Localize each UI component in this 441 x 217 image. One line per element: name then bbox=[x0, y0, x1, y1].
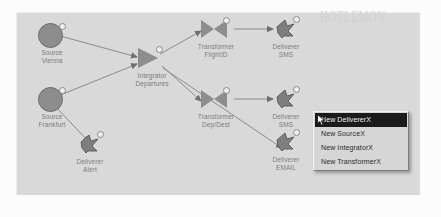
node-handle-icon[interactable] bbox=[293, 86, 300, 93]
app-window: HOTLEMON HOTLEMON.COM bbox=[0, 0, 441, 217]
node-handle-icon[interactable] bbox=[223, 17, 230, 24]
menu-item-new-source[interactable]: New SourceX bbox=[315, 127, 407, 141]
circle-icon bbox=[24, 86, 80, 112]
node-label: Deliverer SMS bbox=[258, 43, 314, 58]
node-label: Transformer Dep/Dest bbox=[188, 113, 244, 128]
menu-item-new-integrator[interactable]: New IntegratorX bbox=[315, 141, 407, 155]
node-source-vienna[interactable]: Source Vienna bbox=[24, 22, 80, 64]
node-handle-icon[interactable] bbox=[223, 87, 230, 94]
arrow-icon bbox=[258, 129, 314, 155]
node-label: Integrator Departures bbox=[124, 72, 180, 87]
node-label: Transformer FlightID bbox=[188, 43, 244, 58]
mouse-cursor-icon bbox=[317, 114, 326, 126]
node-handle-icon[interactable] bbox=[59, 23, 66, 30]
arrow-icon bbox=[258, 86, 314, 112]
node-handle-icon[interactable] bbox=[293, 16, 300, 23]
bowtie-icon bbox=[188, 16, 244, 42]
node-transformer-depdest[interactable]: Transformer Dep/Dest bbox=[188, 86, 244, 128]
node-label: Source Vienna bbox=[24, 49, 80, 64]
node-integrator-departures[interactable]: Integrator Departures bbox=[124, 45, 180, 87]
node-handle-icon[interactable] bbox=[59, 87, 66, 94]
node-transformer-flightid[interactable]: Transformer FlightID bbox=[188, 16, 244, 58]
menu-item-new-deliverer[interactable]: New DelivererX bbox=[315, 113, 407, 127]
node-handle-icon[interactable] bbox=[293, 129, 300, 136]
circle-icon bbox=[24, 22, 80, 48]
node-deliverer-alert[interactable]: Deliverer Alert bbox=[62, 131, 118, 173]
node-source-frankfurt[interactable]: Source Frankfurt bbox=[24, 86, 80, 128]
arrow-icon bbox=[258, 16, 314, 42]
node-label: Deliverer SMS bbox=[258, 113, 314, 128]
bowtie-icon bbox=[188, 86, 244, 112]
node-deliverer-sms-top[interactable]: Deliverer SMS bbox=[258, 16, 314, 58]
menu-item-new-transformer[interactable]: New TransformerX bbox=[315, 155, 407, 169]
node-handle-icon[interactable] bbox=[97, 131, 104, 138]
context-menu[interactable]: New DelivererX New SourceX New Integrato… bbox=[313, 111, 409, 171]
triangle-icon bbox=[124, 45, 180, 71]
arrow-icon bbox=[62, 131, 118, 157]
node-deliverer-sms-mid[interactable]: Deliverer SMS bbox=[258, 86, 314, 128]
node-label: Source Frankfurt bbox=[24, 113, 80, 128]
node-label: Deliverer Alert bbox=[62, 158, 118, 173]
node-deliverer-email[interactable]: Deliverer EMAIL bbox=[258, 129, 314, 171]
node-handle-icon[interactable] bbox=[156, 46, 163, 53]
node-label: Deliverer EMAIL bbox=[258, 156, 314, 171]
